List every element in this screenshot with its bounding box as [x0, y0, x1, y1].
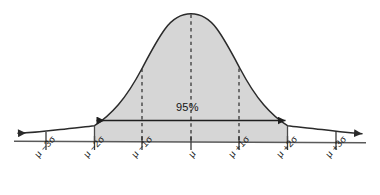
horizontal-axis — [14, 141, 366, 143]
interval-percent-label: 95% — [176, 101, 199, 113]
normal-distribution-chart — [0, 0, 380, 195]
bell-curve-figure: 95% μ −3σ μ −2σ μ −1σ μ μ +1σ μ +2σ μ +3… — [0, 0, 380, 195]
